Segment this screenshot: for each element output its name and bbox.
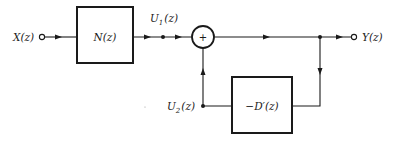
arrow-icon [55, 35, 62, 40]
arrow-icon [318, 68, 323, 75]
u2-node [201, 104, 205, 108]
feedback-wire-right [292, 37, 320, 106]
arrow-icon [201, 68, 206, 75]
arrow-icon [144, 35, 151, 40]
plus-icon: + [199, 32, 207, 43]
arrow-icon [175, 35, 182, 40]
block-d-label: −D′(z) [245, 100, 278, 112]
input-label: X(z) [12, 31, 34, 43]
output-label: Y(z) [362, 31, 383, 43]
arrow-icon [263, 35, 270, 40]
input-terminal [39, 34, 44, 39]
block-n-label: N(z) [93, 31, 117, 43]
u1-node [161, 35, 165, 39]
u1-label: U1(z) [150, 12, 178, 27]
output-terminal [351, 34, 356, 39]
speck [144, 106, 145, 107]
arrow-icon [336, 35, 343, 40]
block-diagram: X(z) N(z) U1(z) + Y(z) −D′(z) U2(z) [0, 0, 394, 141]
u2-label: U2(z) [167, 100, 195, 115]
feedback-wire-left [203, 48, 232, 106]
